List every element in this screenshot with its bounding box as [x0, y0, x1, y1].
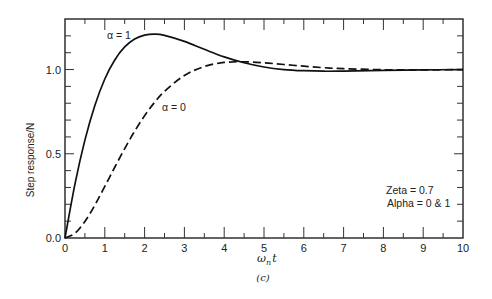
x-tick-label: 9	[420, 242, 426, 254]
x-tick-label: 0	[62, 242, 68, 254]
y-axis-label: Step response/N	[25, 123, 36, 198]
series-label-alpha-1: α = 1	[107, 29, 131, 41]
y-tick-label: 0.0	[46, 232, 61, 244]
x-axis-label: ωnt	[257, 252, 277, 267]
y-tick-label: 1.0	[46, 64, 61, 76]
x-tick-label: 6	[301, 242, 307, 254]
annotation-alpha: Alpha = 0 & 1	[387, 197, 450, 209]
step-response-chart: 0123456789100.00.51.0 α = 1 α = 0 Zeta =…	[0, 0, 492, 299]
x-tick-label: 3	[181, 242, 187, 254]
x-tick-label: 4	[221, 242, 227, 254]
y-tick-label: 0.5	[46, 148, 61, 160]
series-label-alpha-0: α = 0	[162, 101, 186, 113]
series-alpha-0-line	[65, 62, 463, 238]
x-tick-label: 8	[380, 242, 386, 254]
x-tick-label: 2	[142, 242, 148, 254]
x-tick-label: 7	[341, 242, 347, 254]
x-tick-label: 1	[102, 242, 108, 254]
annotation-zeta: Zeta = 0.7	[386, 184, 434, 196]
axis-ticks: 0123456789100.00.51.0	[46, 19, 469, 254]
x-tick-label: 10	[457, 242, 469, 254]
figure-caption: (c)	[256, 272, 270, 283]
